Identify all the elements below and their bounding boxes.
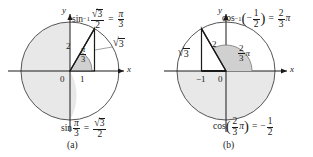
- panel-a-bottom-arg-denominator: 3: [73, 129, 80, 139]
- panel-b-top-result-pi: π: [286, 14, 291, 24]
- panel-a-vertical-leg-label: √ 3: [113, 38, 125, 49]
- panel-a: y x 0 1 2 π 3 √ 3 sin−1: [0, 0, 157, 157]
- radicand: 3: [96, 9, 103, 20]
- panel-a-top-function: sin: [72, 15, 83, 25]
- panel-b-angle-pi: π: [246, 49, 251, 58]
- panel-a-caption: (a): [67, 141, 78, 151]
- panel-a-top-exponent: −1: [83, 16, 90, 22]
- panel-b-bottom-arg-denominator: 3: [232, 128, 239, 138]
- panel-b-top-exponent: −1: [235, 16, 242, 22]
- panel-a-top-arg-denominator: 2: [94, 21, 101, 31]
- panel-a-bottom-result-denominator: 2: [96, 130, 103, 140]
- panel-a-bottom-result-numerator: √ 3: [93, 118, 106, 130]
- panel-b-top-sign: −: [246, 14, 251, 24]
- panel-a-top-result-denominator: 3: [118, 20, 125, 30]
- radical-sign: √: [94, 117, 99, 128]
- panel-b: y x 0 −1 2 √ 3 2 3 π: [156, 0, 313, 157]
- panel-b-x-axis-label: x: [290, 65, 294, 74]
- radicand: 3: [99, 118, 106, 129]
- panel-b-top-equation: cos−1 ( − 1 2 ) = 2 3 π: [222, 9, 290, 29]
- panel-b-top-result-denominator: 3: [278, 20, 285, 30]
- radical-sign: √: [92, 8, 97, 19]
- panel-b-top-arg-denominator: 2: [253, 20, 260, 30]
- panel-b-origin-label: 0: [218, 75, 223, 84]
- panel-b-caption: (b): [223, 141, 234, 151]
- panel-b-angle-denominator: 3: [238, 54, 245, 63]
- panel-a-y-axis-label: y: [62, 6, 66, 15]
- radical-sign: √: [113, 37, 119, 49]
- panel-b-top-arg-numerator: 1: [253, 9, 260, 20]
- panel-a-origin-label: 0: [60, 75, 65, 84]
- panel-b-top-close-paren: ): [261, 13, 266, 25]
- panel-a-angle-denominator: 3: [80, 55, 86, 64]
- panel-b-bottom-result-numerator: 1: [267, 117, 274, 128]
- panel-a-angle-label: π 3: [79, 45, 87, 63]
- panel-b-bottom-sign: −: [260, 122, 265, 132]
- panel-b-bottom-arg-numerator: 2: [232, 117, 239, 128]
- panel-b-bottom-equation: cos ( 2 3 π ) = − 1 2: [213, 117, 274, 137]
- panel-a-top-arg-numerator: √ 3: [91, 9, 104, 21]
- panel-b-base-label: −1: [196, 75, 206, 84]
- radical-sign: √: [178, 47, 184, 59]
- panel-b-top-function: cos: [222, 14, 235, 24]
- panel-a-top-equals: =: [108, 15, 113, 25]
- panel-b-top-equals: =: [268, 14, 273, 24]
- panel-b-bottom-open-paren: (: [226, 121, 231, 133]
- x-axis-arrowhead: [118, 68, 124, 73]
- panel-a-bottom-function: sin: [61, 124, 72, 134]
- panel-b-bottom-equals: =: [252, 122, 257, 132]
- panel-a-bottom-equals: =: [84, 124, 89, 134]
- panel-a-x-axis-label: x: [127, 65, 131, 74]
- x-axis-arrowhead: [281, 68, 287, 73]
- panel-b-angle-label: 2 3 π: [237, 44, 250, 63]
- panel-b-hypotenuse-label: 2: [212, 40, 217, 49]
- panel-a-hypotenuse-label: 2: [66, 42, 71, 51]
- panel-a-top-equation: sin−1 √ 3 2 = π 3: [72, 9, 125, 30]
- panel-b-bottom-function: cos: [213, 122, 226, 132]
- inverse-trig-unit-circle-figure: y x 0 1 2 π 3 √ 3 sin−1: [0, 0, 313, 157]
- panel-a-base-label: 1: [80, 75, 85, 84]
- panel-a-bottom-equation: sin π 3 = √ 3 2: [61, 118, 107, 139]
- panel-b-vertical-leg-label: √ 3: [178, 48, 190, 59]
- panel-b-bottom-close-paren: ): [244, 121, 249, 133]
- panel-b-bottom-result-denominator: 2: [267, 128, 274, 138]
- panel-b-top-result-numerator: 2: [278, 9, 285, 20]
